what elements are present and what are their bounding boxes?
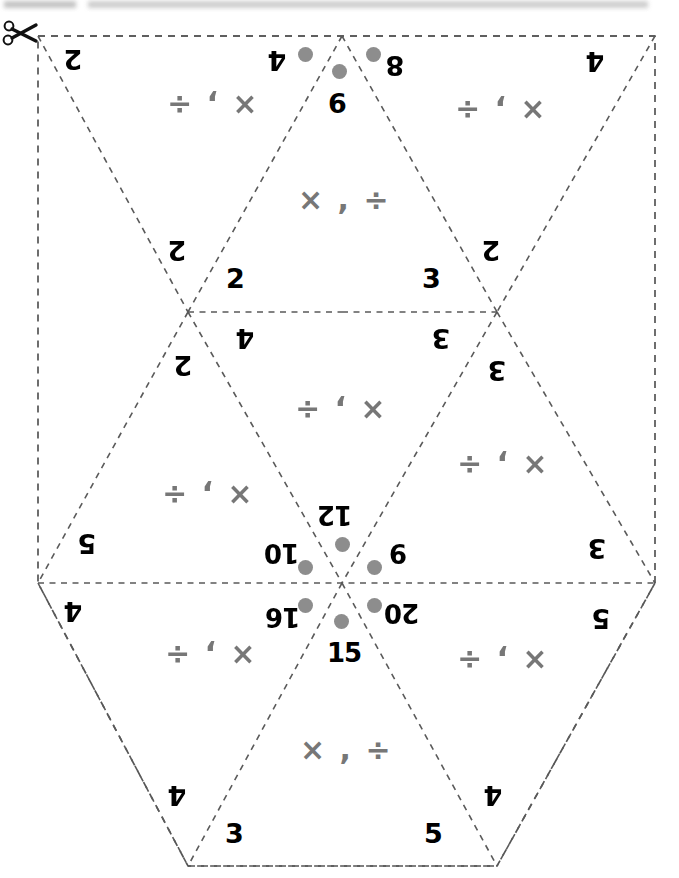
scissors-icon (2, 20, 46, 50)
worksheet-page: 2 × , ÷ 2 4 8 6 × , ÷ 2 3 4 × , ÷ 2 4 3 … (0, 0, 679, 878)
corner-number-bottom-center-left: 3 (225, 820, 243, 847)
hub-number-10: 10 (265, 540, 299, 566)
tri-top-left-right-edge (38, 36, 188, 312)
edge-number-right-vertex-3: 3 (588, 535, 606, 562)
operators-mid-right: × , ÷ (455, 450, 548, 480)
edge-number-left-vertex-5: 5 (78, 530, 96, 557)
tri-top-right-left-edge (497, 36, 655, 312)
operators-mid-left: × , ÷ (160, 480, 253, 510)
operators-top-right: × , ÷ (453, 95, 546, 125)
operators-bottom-right: × , ÷ (455, 645, 548, 675)
operators-top-left: × , ÷ (165, 90, 258, 120)
dot-top-center-left (298, 47, 313, 62)
apex-number-top-center: 6 (328, 90, 346, 117)
corner-number-top-center-right: 3 (422, 265, 440, 292)
edge-number-top-center-right: 8 (386, 52, 404, 79)
tri-mid-left-left-edge (38, 312, 188, 583)
edge-number-upper-right-vertex: 2 (482, 237, 500, 264)
edge-number-top-right-outer: 4 (586, 48, 604, 75)
dot-top-center-apex (332, 64, 347, 79)
tri-bot-center-left-edge (188, 583, 342, 866)
tri-bot-right-right-edge (497, 583, 655, 866)
apex-number-bottom-right: 4 (484, 782, 502, 809)
edge-number-top-center-left: 4 (268, 47, 286, 74)
apex-number-bottom-left: 4 (168, 782, 186, 809)
edge-number-mid-center-right-3: 3 (432, 325, 450, 352)
tri-bot-left-left-edge (38, 583, 188, 866)
operators-mid-center: × , ÷ (293, 395, 386, 425)
hub-dot-12 (335, 537, 350, 552)
edge-number-left-vertex-4: 4 (64, 598, 82, 625)
edge-number-upper-vertex-left: 2 (168, 237, 186, 264)
operators-bottom-center: × , ÷ (300, 735, 393, 765)
hub-dot-9 (367, 560, 382, 575)
edge-number-top-left-outer: 2 (64, 46, 82, 73)
dot-top-center-right (366, 47, 381, 62)
hub-number-16: 16 (266, 604, 300, 630)
tri-bot-center-right-edge (342, 583, 497, 866)
hub-number-20: 20 (385, 600, 419, 626)
edge-number-mid-left-apex-2: 2 (174, 352, 192, 379)
corner-number-top-center-left: 2 (226, 265, 244, 292)
tri-top-center-left-edge (188, 36, 342, 312)
hub-number-15: 15 (327, 640, 361, 666)
hub-dot-16 (298, 598, 313, 613)
hub-number-12: 12 (318, 502, 352, 528)
hub-dot-15 (334, 614, 349, 629)
edge-number-mid-right-apex-3: 3 (488, 357, 506, 384)
edge-number-right-vertex-5: 5 (592, 605, 610, 632)
hub-dot-20 (367, 598, 382, 613)
tri-top-center-right-edge (342, 36, 497, 312)
hub-dot-10 (298, 560, 313, 575)
edge-number-mid-center-left-4: 4 (236, 325, 254, 352)
operators-top-center: × , ÷ (298, 185, 391, 215)
operators-bottom-left: × , ÷ (163, 640, 256, 670)
hub-number-9: 9 (390, 540, 407, 566)
corner-number-bottom-center-right: 5 (424, 820, 442, 847)
